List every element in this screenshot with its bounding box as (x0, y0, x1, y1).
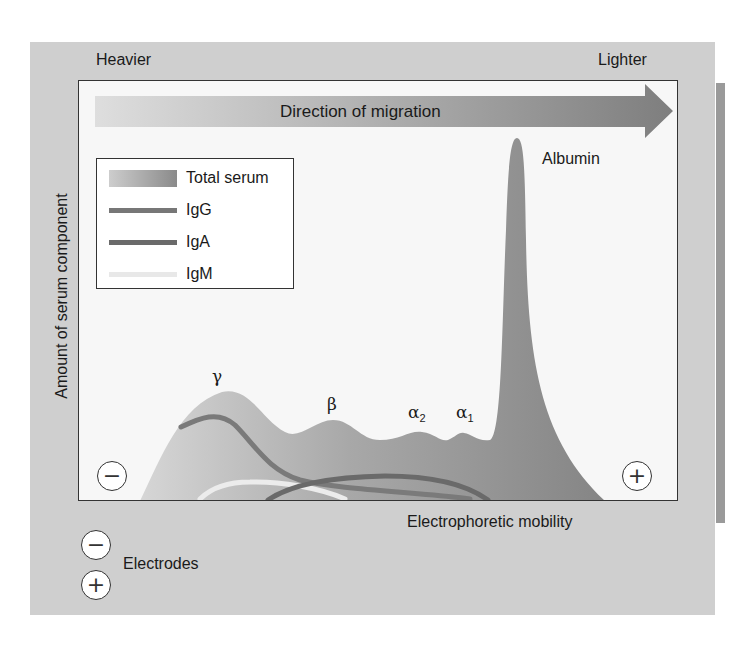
gamma-label: γ (212, 368, 222, 385)
albumin-label: Albumin (542, 151, 600, 167)
legend-item-total-serum: Total serum (109, 168, 269, 188)
legend-item-igm: IgM (109, 264, 213, 284)
electrophoresis-chart (0, 0, 752, 655)
plus-symbol: + (628, 465, 646, 487)
electrodes-label: Electrodes (123, 556, 199, 572)
alpha1-label: α1 (456, 404, 474, 424)
legend-label: IgA (186, 233, 210, 251)
plus-electrode-icon: + (622, 461, 652, 491)
minus-electrode-icon: − (97, 461, 127, 491)
legend-label: IgG (186, 201, 212, 219)
minus-symbol: − (87, 534, 105, 556)
y-axis-label: Amount of serum component (53, 193, 71, 398)
beta-label: β (327, 396, 337, 413)
alpha2-label: α2 (408, 404, 426, 424)
legend-label: IgM (186, 265, 213, 283)
legend-label: Total serum (186, 169, 269, 187)
legend-plus-electrode-icon: + (81, 570, 111, 600)
igg-swatch (109, 208, 177, 213)
legend-item-iga: IgA (109, 232, 210, 252)
direction-of-migration-label: Direction of migration (280, 102, 441, 122)
legend-minus-electrode-icon: − (81, 530, 111, 560)
alpha2-symbol: α (408, 402, 419, 422)
igm-swatch (109, 272, 177, 277)
x-axis-label: Electrophoretic mobility (407, 514, 572, 530)
alpha1-subscript: 1 (467, 412, 473, 424)
legend: Total serum IgG IgA IgM (96, 158, 294, 289)
alpha1-symbol: α (456, 402, 467, 422)
legend-item-igg: IgG (109, 200, 212, 220)
alpha2-subscript: 2 (419, 412, 425, 424)
minus-symbol: − (103, 465, 121, 487)
plus-symbol: + (87, 574, 105, 596)
iga-swatch (109, 240, 177, 245)
total-serum-swatch (109, 170, 177, 187)
